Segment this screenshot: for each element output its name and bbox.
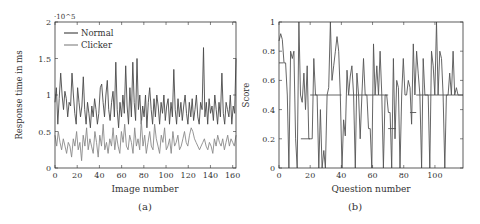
- series-normal-line: [55, 48, 236, 128]
- y-tick-label: 0: [46, 164, 51, 173]
- panel-b-x-label: Question number: [331, 184, 411, 194]
- x-tick-label: 80: [139, 171, 149, 180]
- series-clicker-line: [55, 121, 236, 161]
- x-tick-label: 40: [336, 171, 346, 180]
- x-tick-label: 80: [399, 171, 409, 180]
- y-tick-label: 1: [46, 91, 51, 100]
- y-tick-label: 0.6: [262, 76, 275, 85]
- x-tick-label: 0: [276, 171, 281, 180]
- panel-a-series: [55, 48, 236, 161]
- y-tick-label: 0.8: [262, 47, 275, 56]
- panel-b-caption: (b): [348, 201, 362, 212]
- x-tick-label: 20: [72, 171, 82, 180]
- y-tick-label: 1: [270, 18, 275, 27]
- legend-clicker-label: Clicker: [81, 40, 113, 50]
- x-tick-label: 140: [203, 171, 218, 180]
- x-tick-label: 20: [305, 171, 315, 180]
- x-tick-label: 100: [427, 171, 442, 180]
- panel-b-y-ticks: 00.20.40.60.81: [262, 18, 463, 173]
- x-tick-label: 40: [94, 171, 104, 180]
- x-tick-label: 100: [158, 171, 173, 180]
- y-tick-label: 0.4: [262, 106, 275, 115]
- x-tick-label: 60: [117, 171, 127, 180]
- x-tick-label: 120: [181, 171, 196, 180]
- panel-a-response-time-chart: 020406080100120140160 00.511.52 ·10^5 Im…: [14, 13, 240, 212]
- x-tick-label: 0: [52, 171, 57, 180]
- y-tick-label: 1.5: [38, 55, 51, 64]
- panel-b-y-label: Score: [241, 83, 251, 108]
- panel-b-score-chart: 020406080100 00.20.40.60.81 Question num…: [241, 18, 463, 212]
- panel-a-y-ticks: 00.511.52: [38, 18, 236, 173]
- panel-a-y-multiplier: ·10^5: [54, 13, 75, 21]
- legend-normal-label: Normal: [81, 28, 114, 38]
- y-tick-label: 2: [46, 18, 51, 27]
- x-tick-label: 60: [367, 171, 377, 180]
- panel-a-caption: (a): [138, 201, 152, 212]
- panel-b-series: [279, 22, 463, 168]
- panel-b-x-ticks: 020406080100: [276, 22, 442, 180]
- y-tick-label: 0.2: [262, 135, 275, 144]
- panel-a-legend: Normal Clicker: [64, 28, 114, 50]
- y-tick-label: 0: [270, 164, 275, 173]
- x-tick-label: 160: [225, 171, 240, 180]
- figure: 020406080100120140160 00.511.52 ·10^5 Im…: [0, 0, 480, 224]
- y-tick-label: 0.5: [38, 128, 51, 137]
- panel-a-y-label: Response time in ms: [14, 50, 24, 139]
- panel-a-x-label: Image number: [112, 184, 180, 194]
